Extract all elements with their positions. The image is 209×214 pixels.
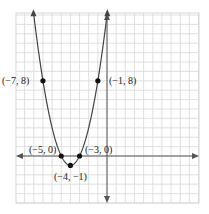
label-point-neg3-0: (−3, 0)	[85, 144, 112, 156]
parabola-graph: (−7, 8) (−1, 8) (−5, 0) (−3, 0) (−4, −1)	[0, 0, 209, 214]
label-vertex: (−4, −1)	[54, 171, 87, 183]
label-point-neg7-8: (−7, 8)	[2, 75, 29, 87]
label-point-neg1-8: (−1, 8)	[109, 75, 136, 87]
label-point-neg5-0: (−5, 0)	[29, 144, 56, 156]
